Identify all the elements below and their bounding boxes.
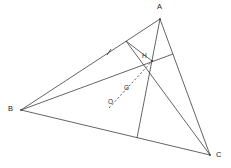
vertex-marker-C xyxy=(209,154,211,156)
side-CA xyxy=(160,19,210,155)
vertex-marker-A xyxy=(159,18,161,20)
side-AB xyxy=(21,19,160,110)
vertex-label-B: B xyxy=(8,105,13,113)
geometry-canvas xyxy=(0,0,231,168)
vertex-label-A: A xyxy=(157,3,162,11)
cevian-B-to-AC xyxy=(21,54,173,110)
tick-mark-on-AB xyxy=(107,49,111,55)
euler-line xyxy=(109,60,153,108)
point-marker-H xyxy=(151,60,153,62)
point-label-H: H xyxy=(142,53,147,60)
vertex-label-C: C xyxy=(216,151,222,159)
geometry-figure: A B C H G O xyxy=(0,0,231,168)
vertex-marker-B xyxy=(20,109,22,111)
point-label-G: G xyxy=(124,85,129,92)
point-label-O: O xyxy=(108,99,113,106)
cevian-A-to-BC xyxy=(137,19,160,138)
